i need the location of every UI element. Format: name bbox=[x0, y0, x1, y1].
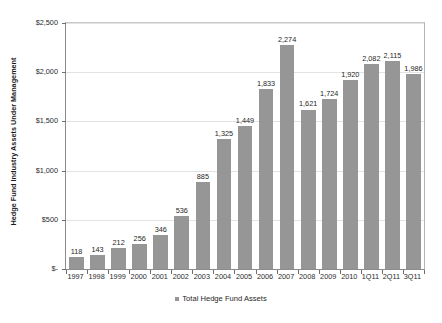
y-axis-tick-label: $500 bbox=[42, 214, 58, 223]
bar-2005 bbox=[238, 126, 253, 269]
bar-2010 bbox=[343, 80, 358, 269]
bar-value-label-2009: 1,724 bbox=[320, 89, 338, 98]
y-axis-tickmark bbox=[62, 220, 66, 221]
chart-legend: Total Hedge Fund Assets bbox=[0, 294, 442, 303]
bar-2008 bbox=[301, 110, 316, 270]
legend-label-total-hedge-fund-assets: Total Hedge Fund Assets bbox=[182, 294, 266, 303]
bar-value-label-2000: 256 bbox=[134, 234, 146, 243]
x-axis-tick-label-2005: 2005 bbox=[236, 272, 252, 281]
x-axis-tick-label-1998: 1998 bbox=[88, 272, 104, 281]
bar-value-label-1998: 143 bbox=[91, 245, 103, 254]
bar-value-label-2010: 1,920 bbox=[341, 70, 359, 79]
x-axis-tick-label-2006: 2006 bbox=[257, 272, 273, 281]
y-axis-tick-label: $2,500 bbox=[36, 18, 58, 27]
y-axis-tick-label: $2,000 bbox=[36, 67, 58, 76]
plot-area: 1181432122563465368851,3251,4491,8332,27… bbox=[65, 22, 425, 270]
bar-value-label-1999: 212 bbox=[113, 238, 125, 247]
y-axis-tick-label: $1,500 bbox=[36, 116, 58, 125]
y-axis-tickmark bbox=[62, 121, 66, 122]
bar-3Q11 bbox=[406, 74, 421, 269]
x-axis-tick-label-2002: 2002 bbox=[173, 272, 189, 281]
bar-2007 bbox=[280, 45, 295, 269]
y-axis-tickmark bbox=[62, 171, 66, 172]
bar-2000 bbox=[132, 244, 147, 269]
bar-1997 bbox=[69, 257, 84, 269]
legend-swatch-total-hedge-fund-assets bbox=[175, 297, 179, 301]
x-axis-tick-label-2008: 2008 bbox=[299, 272, 315, 281]
x-axis-tick-label-2009: 2009 bbox=[320, 272, 336, 281]
bar-2Q11 bbox=[385, 61, 400, 269]
bar-1Q11 bbox=[364, 64, 379, 269]
x-axis-tick-label-2003: 2003 bbox=[194, 272, 210, 281]
bar-value-label-3Q11: 1,986 bbox=[404, 64, 422, 73]
y-axis-tick-label: $- bbox=[52, 264, 59, 273]
gridline bbox=[66, 23, 424, 24]
y-axis-tickmark bbox=[62, 72, 66, 73]
bar-2002 bbox=[174, 216, 189, 269]
x-axis-tick-label-3Q11: 3Q11 bbox=[404, 272, 421, 281]
bar-2003 bbox=[196, 182, 211, 269]
bar-2009 bbox=[322, 99, 337, 269]
y-axis-tick-label: $1,000 bbox=[36, 165, 58, 174]
bar-value-label-2002: 536 bbox=[176, 206, 188, 215]
bar-value-label-2008: 1,621 bbox=[299, 99, 317, 108]
bar-value-label-2004: 1,325 bbox=[215, 129, 233, 138]
x-axis-tick-label-1Q11: 1Q11 bbox=[362, 272, 379, 281]
x-axis-tick-label-1999: 1999 bbox=[110, 272, 126, 281]
bar-value-label-2Q11: 2,115 bbox=[384, 51, 402, 60]
bar-value-label-1997: 118 bbox=[71, 247, 83, 256]
bar-value-label-2005: 1,449 bbox=[236, 116, 254, 125]
bar-value-label-2006: 1,833 bbox=[257, 79, 275, 88]
y-axis-tickmark bbox=[62, 23, 66, 24]
y-axis-title: Hedge Fund Industry Assets Under Managem… bbox=[0, 0, 26, 283]
x-axis-tick-label-2004: 2004 bbox=[215, 272, 231, 281]
x-axis-tick-label-2010: 2010 bbox=[341, 272, 357, 281]
bar-value-label-1Q11: 2,082 bbox=[362, 54, 380, 63]
bar-2001 bbox=[153, 235, 168, 269]
bar-value-label-2001: 346 bbox=[155, 225, 167, 234]
x-axis-tick-label-1997: 1997 bbox=[67, 272, 83, 281]
bar-value-label-2003: 885 bbox=[197, 172, 209, 181]
x-axis-tick-label-2000: 2000 bbox=[131, 272, 147, 281]
bar-1999 bbox=[111, 248, 126, 269]
bar-2006 bbox=[259, 89, 274, 269]
x-axis-tick-labels: 1997199819992000200120022003200420052006… bbox=[65, 272, 425, 286]
bar-1998 bbox=[90, 255, 105, 269]
hedge-fund-assets-bar-chart: Hedge Fund Industry Assets Under Managem… bbox=[0, 0, 442, 323]
x-axis-tick-label-2007: 2007 bbox=[278, 272, 294, 281]
bar-2004 bbox=[217, 139, 232, 269]
x-axis-tick-label-2001: 2001 bbox=[152, 272, 168, 281]
y-axis-tick-labels: $-$500$1,000$1,500$2,000$2,500 bbox=[26, 0, 62, 283]
y-axis-title-text: Hedge Fund Industry Assets Under Managem… bbox=[9, 57, 18, 225]
bar-value-label-2007: 2,274 bbox=[278, 35, 296, 44]
x-axis-tick-label-2Q11: 2Q11 bbox=[383, 272, 400, 281]
